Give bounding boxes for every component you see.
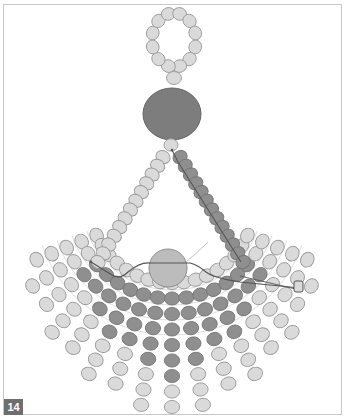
top-loop-and-oval <box>143 6 203 287</box>
dark-bead <box>218 309 237 327</box>
light-bead <box>93 337 112 355</box>
dark-bead <box>185 336 202 351</box>
dark-bead <box>114 295 133 313</box>
light-bead <box>42 244 61 264</box>
dark-bead <box>211 295 230 313</box>
dark-bead <box>140 351 157 366</box>
light-bead <box>219 375 237 392</box>
thread-light-segment <box>186 242 208 262</box>
dark-bead <box>164 292 179 305</box>
dark-bead <box>121 331 139 348</box>
light-bead <box>164 400 179 413</box>
dark-bead <box>164 307 179 320</box>
right-bead-strand <box>170 148 252 271</box>
dark-bead <box>164 338 179 351</box>
dark-bead <box>201 316 219 333</box>
light-bead <box>164 385 179 398</box>
light-bead <box>192 382 209 397</box>
light-bead <box>107 375 125 392</box>
light-bead <box>111 360 129 377</box>
light-bead <box>232 337 251 355</box>
dark-bead <box>100 323 119 341</box>
end-bead <box>294 281 303 292</box>
light-bead <box>239 351 258 369</box>
dark-bead <box>205 331 223 348</box>
light-bead <box>137 367 154 382</box>
dark-bead <box>225 323 244 341</box>
light-bead <box>86 351 105 369</box>
beading-diagram <box>0 0 348 419</box>
light-bead <box>215 360 233 377</box>
light-bead <box>210 346 228 363</box>
thread-end-dot <box>90 261 93 264</box>
light-bead <box>283 244 302 264</box>
light-bead <box>27 250 46 270</box>
dark-bead <box>145 321 162 336</box>
light-bead <box>298 250 317 270</box>
light-bead <box>190 367 207 382</box>
dark-bead <box>142 336 159 351</box>
light-bead <box>79 365 98 383</box>
center-round-bead <box>149 249 187 287</box>
dark-bead <box>196 301 214 318</box>
thread-start-dot <box>171 149 174 152</box>
light-bead <box>167 72 182 85</box>
dark-bead <box>164 323 179 336</box>
dark-bead <box>183 321 200 336</box>
light-bead <box>135 382 152 397</box>
dark-bead <box>130 301 148 318</box>
dark-bead <box>125 316 143 333</box>
light-bead <box>133 397 150 412</box>
dark-bead <box>187 351 204 366</box>
light-bead <box>246 365 265 383</box>
step-number-badge: 14 <box>4 399 23 415</box>
large-oval-bead <box>143 88 201 140</box>
dark-bead <box>164 369 179 382</box>
light-bead <box>116 346 134 363</box>
dark-bead <box>164 354 179 367</box>
light-bead <box>194 397 211 412</box>
dark-bead <box>107 309 126 327</box>
